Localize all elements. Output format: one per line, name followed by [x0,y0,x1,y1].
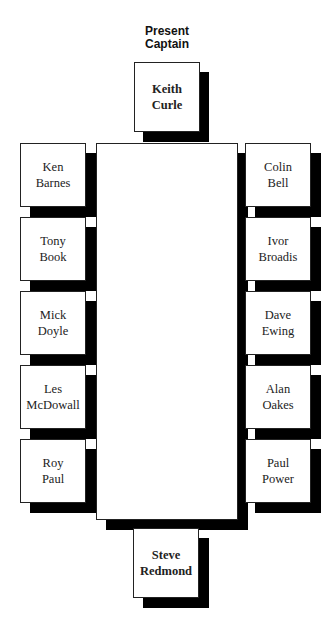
seat-first-name: Les [26,381,79,397]
seat-first-name: Ken [36,159,71,175]
right-seat-1: ColinBell [245,143,311,207]
seat-first-name: Tony [39,233,66,249]
right-seat-2: IvorBroadis [245,217,311,281]
seat-last-name: Oakes [262,397,293,413]
seat-first-name: Alan [262,381,293,397]
seat-last-name: Doyle [38,323,69,339]
seat-last-name: Power [262,471,294,487]
seat-last-name: Barnes [36,175,71,191]
seat-top-keith-curle: KeithCurle [134,62,200,132]
seat-last-name: Paul [42,471,64,487]
seat-first-name: Steve [140,547,192,563]
seat-last-name: Bell [264,175,292,191]
left-seat-3: MickDoyle [20,291,86,355]
right-seat-3: DaveEwing [245,291,311,355]
seat-last-name: Curle [152,97,183,113]
seat-last-name: Ewing [262,323,295,339]
seat-last-name: Redmond [140,563,192,579]
left-seat-5: RoyPaul [20,439,86,503]
present-captain-heading: Present Captain [117,25,217,51]
seat-last-name: Book [39,249,66,265]
seat-first-name: Keith [152,81,183,97]
seat-last-name: McDowall [26,397,79,413]
seat-first-name: Dave [262,307,295,323]
right-seat-5: PaulPower [245,439,311,503]
seat-first-name: Roy [42,455,64,471]
seat-last-name: Broadis [259,249,298,265]
seat-bottom-steve-redmond: SteveRedmond [133,528,199,598]
left-seat-2: TonyBook [20,217,86,281]
seat-first-name: Paul [262,455,294,471]
seat-first-name: Ivor [259,233,298,249]
seat-first-name: Colin [264,159,292,175]
table [96,143,238,520]
seat-first-name: Mick [38,307,69,323]
right-seat-4: AlanOakes [245,365,311,429]
left-seat-4: LesMcDowall [20,365,86,429]
left-seat-1: KenBarnes [20,143,86,207]
